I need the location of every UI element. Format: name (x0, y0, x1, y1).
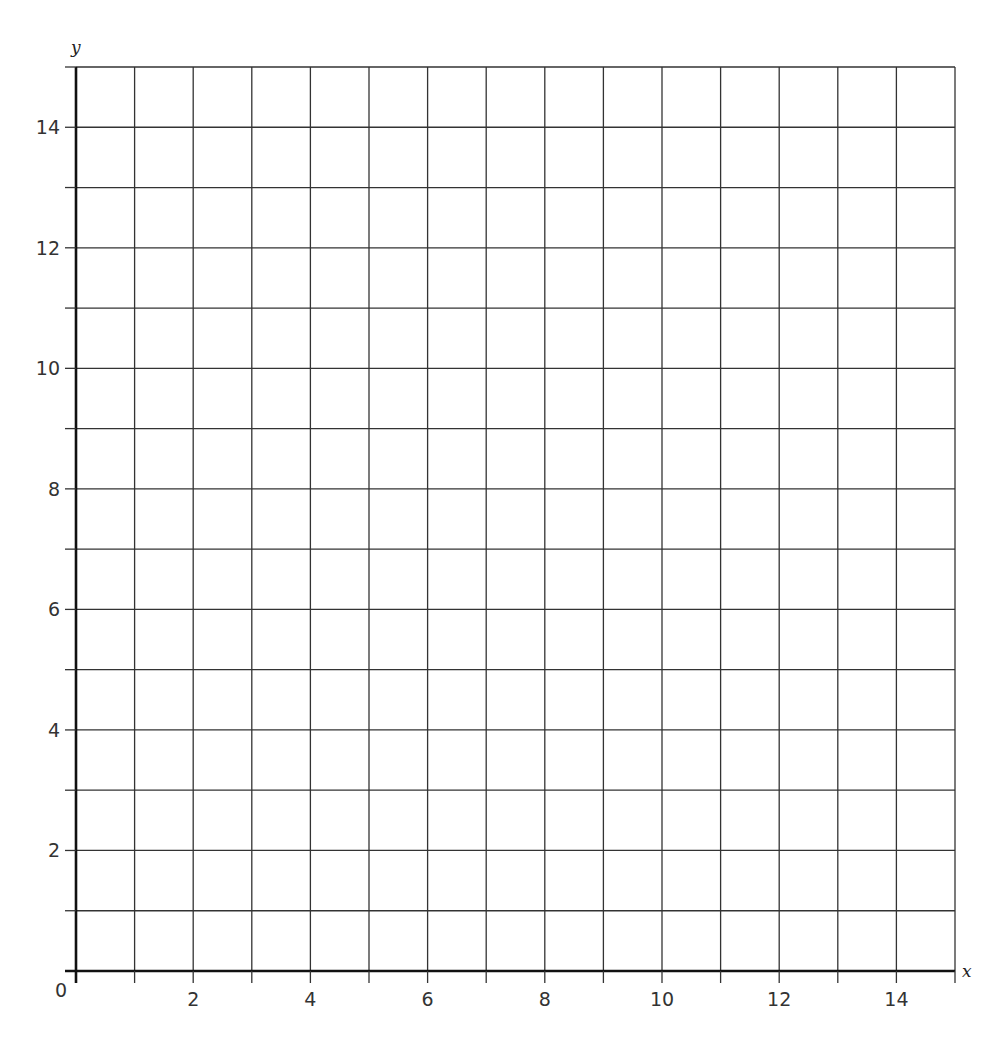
tick-labels: 24681012142468101214 (36, 116, 909, 1010)
x-tick-label: 6 (422, 988, 434, 1010)
y-tick-label: 10 (36, 357, 60, 379)
y-tick-label: 2 (48, 839, 60, 861)
grid-lines (76, 67, 955, 971)
x-tick-label: 2 (187, 988, 199, 1010)
y-tick-label: 8 (48, 478, 60, 500)
axes (65, 67, 955, 983)
x-tick-label: 12 (767, 988, 791, 1010)
x-tick-label: 14 (884, 988, 908, 1010)
tick-marks (65, 67, 955, 983)
x-tick-label: 10 (650, 988, 674, 1010)
y-axis-label: y (70, 37, 81, 57)
coordinate-grid-chart: 24681012142468101214 x y 0 (0, 0, 997, 1049)
y-tick-label: 12 (36, 237, 60, 259)
y-tick-label: 6 (48, 598, 60, 620)
x-tick-label: 8 (539, 988, 551, 1010)
y-tick-label: 14 (36, 116, 60, 138)
y-tick-label: 4 (48, 719, 60, 741)
x-tick-label: 4 (304, 988, 316, 1010)
x-axis-label: x (962, 961, 972, 981)
origin-label: 0 (55, 979, 67, 1001)
